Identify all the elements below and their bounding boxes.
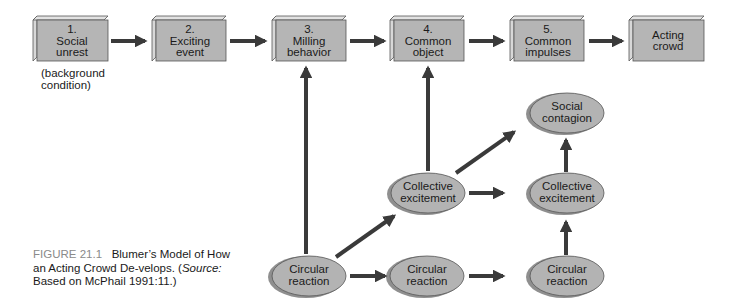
svg-text:contagion: contagion: [542, 112, 592, 124]
stage-label-line2: unrest: [56, 46, 89, 58]
stage-number: 1.: [67, 23, 77, 35]
stage-box-2: 2. Exciting event: [152, 16, 226, 61]
figure-caption: FIGURE 21.1 Blumer’s Model of How an Act…: [33, 248, 233, 289]
svg-text:Collective: Collective: [542, 180, 592, 192]
stage-label-line2: object: [413, 46, 444, 58]
svg-text:Circular: Circular: [407, 263, 447, 275]
stage-box-5: 5. Common impulses: [510, 16, 584, 61]
process-arrows: [306, 68, 566, 276]
stage-box-3: 3. Milling behavior: [272, 16, 346, 61]
ellipse-circular-reaction-mid: Circular reaction: [386, 256, 464, 298]
stage-box-1: 1. Social unrest: [33, 16, 108, 61]
stage-number: 5.: [543, 23, 553, 35]
stage-number: 4.: [423, 23, 433, 35]
svg-text:excitement: excitement: [539, 192, 595, 204]
ellipse-social-contagion: Social contagion: [526, 93, 604, 135]
svg-text:Social: Social: [551, 100, 582, 112]
ellipse-circular-reaction-left: Circular reaction: [268, 256, 346, 298]
stage-box-acting-crowd: Acting crowd: [629, 16, 704, 61]
stage-label-line2: event: [176, 46, 205, 58]
stage-label-line2: behavior: [287, 46, 331, 58]
stage-number: 2.: [185, 23, 195, 35]
stage-label-line2: impulses: [525, 46, 571, 58]
arrow-icon: [336, 216, 394, 257]
svg-text:reaction: reaction: [289, 275, 330, 287]
svg-text:Circular: Circular: [289, 263, 329, 275]
stage-label-line2: crowd: [653, 40, 684, 52]
svg-text:reaction: reaction: [547, 275, 588, 287]
svg-text:excitement: excitement: [400, 192, 456, 204]
figure-label: FIGURE 21.1: [33, 248, 102, 260]
svg-text:Collective: Collective: [403, 180, 453, 192]
ellipse-collective-excitement-right: Collective excitement: [526, 173, 604, 215]
svg-text:Circular: Circular: [547, 263, 587, 275]
stage1-note: (background condition): [41, 67, 105, 91]
ellipse-circular-reaction-right: Circular reaction: [526, 256, 604, 298]
stage-number: 3.: [304, 23, 314, 35]
figure-title-part2: Based on McPhail 1991:11.): [33, 275, 177, 287]
svg-text:reaction: reaction: [407, 275, 448, 287]
source-label: Source:: [182, 262, 222, 274]
stage-box-4: 4. Common object: [390, 16, 464, 61]
arrow-icon: [456, 132, 514, 173]
ellipse-collective-excitement-mid: Collective excitement: [387, 173, 465, 215]
